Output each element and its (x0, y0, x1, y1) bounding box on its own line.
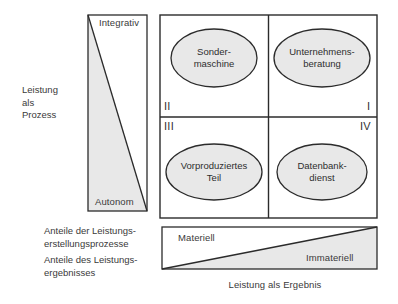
vertical-bar-top-label: Integrativ (99, 17, 139, 29)
quadrant-label-sondermaschine: Sonder- maschine (174, 46, 254, 69)
quadrant-numeral-iv: IV (360, 121, 371, 132)
legend-leistungserstellungsprozesse: Anteile der Leistungs- erstellungsprozes… (44, 225, 136, 250)
diagram-root: Leistung als Prozess Integrativ Autonom … (0, 0, 398, 304)
horizontal-bar-left-label: Materiell (178, 232, 215, 244)
quadrant-numeral-ii: II (164, 101, 171, 112)
vertical-bar-group (88, 15, 147, 211)
axis-title-vertical: Leistung als Prozess (22, 84, 58, 122)
quadrant-numeral-i: I (367, 101, 370, 112)
quadrant-label-unternehmensberatung: Unternehmens- beratung (277, 46, 367, 69)
legend-leistungsergebnisses: Anteile des Leistungs- ergebnisses (44, 254, 137, 279)
horizontal-bar-right-label: Immateriell (306, 252, 354, 264)
quadrant-numeral-iii: III (164, 121, 174, 132)
quadrant-label-vorproduziertes-teil: Vorproduziertes Teil (169, 160, 259, 183)
quadrant-label-datenbankdienst: Datenbank- dienst (280, 160, 364, 183)
vertical-bar-bottom-label: Autonom (95, 196, 134, 208)
axis-title-horizontal: Leistung als Ergebnis (200, 279, 350, 291)
